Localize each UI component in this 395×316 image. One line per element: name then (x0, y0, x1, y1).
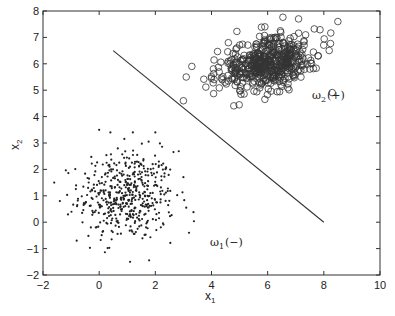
data-point-dot (182, 176, 184, 178)
data-point-dot (163, 176, 165, 178)
data-point-dot (156, 185, 158, 187)
x-tick-label: 10 (374, 279, 386, 291)
data-point-dot (130, 229, 132, 231)
data-point-dot (158, 212, 160, 214)
data-point-dot (148, 210, 150, 212)
data-point-dot (106, 175, 108, 177)
data-point-dot (93, 174, 95, 176)
data-point-dot (168, 174, 170, 176)
data-point-dot (94, 165, 96, 167)
data-point-dot (116, 198, 118, 200)
data-point-dot (115, 164, 117, 166)
data-point-circle (225, 39, 232, 46)
data-point-dot (108, 164, 110, 166)
data-point-dot (127, 199, 129, 201)
data-point-dot (169, 168, 171, 170)
data-point-dot (158, 160, 160, 162)
data-point-dot (181, 191, 183, 193)
data-point-dot (147, 168, 149, 170)
data-point-dot (72, 204, 74, 206)
data-point-dot (143, 200, 145, 202)
data-point-dot (146, 195, 148, 197)
data-point-dot (144, 170, 146, 172)
data-point-dot (111, 230, 113, 232)
data-point-dot (90, 205, 92, 207)
data-point-dot (144, 182, 146, 184)
tick-labels: −20246810−2−1012345678 (26, 5, 386, 291)
data-point-dot (133, 210, 135, 212)
data-point-dot (123, 184, 125, 186)
data-point-dot (161, 146, 163, 148)
data-point-circle (286, 86, 293, 93)
data-point-dot (160, 198, 162, 200)
data-point-dot (99, 221, 101, 223)
data-point-circle (327, 30, 334, 37)
data-point-dot (126, 174, 128, 176)
data-point-dot (139, 210, 141, 212)
data-point-dot (141, 237, 143, 239)
data-point-dot (124, 150, 126, 152)
data-point-dot (117, 221, 119, 223)
data-point-dot (101, 234, 103, 236)
data-point-circle (326, 47, 333, 54)
data-point-dot (140, 164, 142, 166)
data-point-dot (110, 204, 112, 206)
data-point-dot (150, 205, 152, 207)
data-point-dot (119, 203, 121, 205)
data-point-dot (130, 184, 132, 186)
data-point-dot (117, 192, 119, 194)
data-point-dot (113, 199, 115, 201)
data-point-dot (133, 233, 135, 235)
data-point-dot (141, 182, 143, 184)
data-point-dot (99, 182, 101, 184)
data-point-circle (200, 76, 207, 83)
data-point-dot (152, 204, 154, 206)
data-point-dot (87, 187, 89, 189)
y-tick-label: −1 (26, 243, 39, 255)
data-point-dot (153, 173, 155, 175)
data-point-dot (117, 203, 119, 205)
data-point-dot (131, 162, 133, 164)
data-point-dot (143, 167, 145, 169)
data-point-circle (203, 84, 210, 91)
data-point-dot (192, 211, 194, 213)
data-point-dot (125, 181, 127, 183)
data-point-circle (211, 57, 218, 64)
data-point-dot (164, 168, 166, 170)
data-point-dot (130, 210, 132, 212)
data-point-dot (164, 200, 166, 202)
data-point-dot (107, 247, 109, 249)
data-point-dot (124, 179, 126, 181)
data-point-dot (138, 165, 140, 167)
data-point-dot (106, 223, 108, 225)
data-point-dot (143, 191, 145, 193)
data-point-dot (139, 195, 141, 197)
data-point-circle (280, 14, 287, 21)
data-point-dot (109, 185, 111, 187)
data-point-dot (114, 187, 116, 189)
data-point-dot (118, 181, 120, 183)
data-point-dot (145, 203, 147, 205)
data-point-dot (136, 217, 138, 219)
data-point-dot (132, 194, 134, 196)
data-point-dot (106, 162, 108, 164)
data-point-dot (134, 166, 136, 168)
data-point-circle (214, 48, 221, 55)
data-point-dot (156, 171, 158, 173)
data-point-dot (124, 163, 126, 165)
data-point-dot (126, 178, 128, 180)
data-point-dot (112, 207, 114, 209)
data-point-dot (104, 181, 106, 183)
data-point-dot (154, 184, 156, 186)
data-point-dot (133, 197, 135, 199)
data-point-dot (161, 190, 163, 192)
data-point-dot (100, 239, 102, 241)
data-point-dot (113, 210, 115, 212)
data-point-dot (159, 190, 161, 192)
data-point-dot (85, 201, 87, 203)
data-point-circle (244, 84, 251, 91)
data-point-dot (94, 190, 96, 192)
data-point-dot (140, 204, 142, 206)
data-point-dot (134, 163, 136, 165)
data-point-circle (327, 40, 334, 47)
